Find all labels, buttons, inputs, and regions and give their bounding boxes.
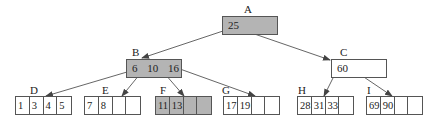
key-cell: 28	[298, 97, 312, 114]
key-cell: 33	[326, 97, 340, 114]
node-label-G: G	[222, 85, 230, 96]
key-cell: 5	[57, 97, 71, 114]
key-cell: 17	[224, 97, 238, 114]
node-A: 25	[222, 16, 278, 35]
key-cell: 7	[85, 97, 99, 114]
edge-A-B	[142, 29, 229, 58]
edge-B-G	[180, 69, 255, 96]
key-cell: 69	[367, 97, 381, 114]
edge-B-D	[46, 72, 127, 96]
node-D: 1 3 4 5	[15, 96, 72, 115]
key: 25	[228, 19, 239, 31]
node-label-E: E	[102, 85, 109, 96]
key: 16	[168, 62, 179, 74]
node-E: 7 8	[84, 96, 141, 115]
key-cell: 19	[238, 97, 252, 114]
key-cell	[113, 97, 127, 114]
node-label-A: A	[244, 4, 252, 15]
node-I: 69 90	[366, 96, 423, 115]
key: 6	[132, 62, 138, 74]
key: 10	[147, 62, 158, 74]
b-tree-diagram: A B C D E F G H I 25 6 10 16 60 1 3 4 5 …	[0, 0, 439, 123]
key-cell	[265, 97, 279, 114]
key-cell	[408, 97, 422, 114]
node-F: 11 13	[155, 96, 212, 115]
key-cell: 13	[170, 97, 184, 114]
node-label-D: D	[30, 85, 38, 96]
node-label-B: B	[132, 47, 139, 58]
node-label-F: F	[160, 85, 166, 96]
key-cell	[197, 97, 211, 114]
key-cell	[339, 97, 353, 114]
key-cell: 4	[44, 97, 58, 114]
key-cell	[184, 97, 198, 114]
key-cell: 8	[99, 97, 113, 114]
node-H: 28 31 33	[297, 96, 354, 115]
key-cell: 1	[16, 97, 30, 114]
key-cell: 31	[312, 97, 326, 114]
key-cell: 90	[381, 97, 395, 114]
node-C: 60	[331, 59, 387, 78]
key-cell: 3	[30, 97, 44, 114]
key-cell	[126, 97, 140, 114]
node-G: 17 19	[223, 96, 280, 115]
key-cell	[395, 97, 409, 114]
key: 60	[337, 62, 348, 74]
node-label-I: I	[367, 85, 371, 96]
key-cell	[252, 97, 266, 114]
node-B: 6 10 16	[126, 59, 182, 78]
key-cell: 11	[156, 97, 170, 114]
node-label-H: H	[298, 85, 306, 96]
node-label-C: C	[340, 47, 347, 58]
